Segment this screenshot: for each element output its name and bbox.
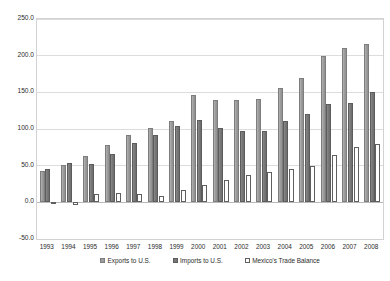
legend-label: Imports to U.S.: [180, 257, 223, 264]
legend-swatch-icon: [245, 258, 250, 263]
gridline: [37, 55, 383, 56]
y-axis-tick-label: 150.0: [0, 87, 34, 94]
x-axis-tick-label: 2001: [209, 243, 231, 250]
y-axis-tick-label: 100.0: [0, 124, 34, 131]
bar-exports: [364, 44, 369, 202]
bar-exports: [256, 99, 261, 202]
x-axis-tick-label: 2002: [231, 243, 253, 250]
bar-exports: [191, 95, 196, 202]
bar-imports: [283, 121, 288, 202]
bar-imports: [305, 114, 310, 202]
bar-balance: [267, 172, 272, 202]
chart-legend: Exports to U.S.Imports to U.S.Mexico's T…: [36, 257, 384, 264]
x-axis-tick-label: 2003: [252, 243, 274, 250]
bar-imports: [67, 163, 72, 202]
bar-balance: [310, 166, 315, 203]
gridline: [37, 92, 383, 93]
bar-balance: [159, 196, 164, 203]
bar-balance: [224, 180, 229, 202]
x-axis-tick-label: 1997: [123, 243, 145, 250]
bar-balance: [181, 190, 186, 202]
bar-imports: [153, 135, 158, 202]
bar-exports: [321, 56, 326, 202]
y-axis-tick-label: 250.0: [0, 14, 34, 21]
bar-imports: [175, 126, 180, 202]
legend-swatch-icon: [100, 258, 105, 263]
bar-balance: [246, 175, 251, 202]
x-axis-tick-label: 1999: [166, 243, 188, 250]
bar-imports: [240, 131, 245, 202]
x-axis-tick-label: 2006: [317, 243, 339, 250]
bar-imports: [110, 154, 115, 202]
bar-exports: [299, 78, 304, 203]
x-axis-tick-label: 2007: [339, 243, 361, 250]
bar-exports: [148, 128, 153, 202]
bar-balance: [94, 194, 99, 202]
x-axis-tick-label: 1993: [36, 243, 58, 250]
bar-balance: [354, 147, 359, 202]
trade-bar-chart: Billions US$ 250.0200.0150.0100.050.00.0…: [0, 0, 390, 281]
bar-balance: [332, 155, 337, 202]
bar-imports: [45, 169, 50, 202]
bar-exports: [40, 171, 45, 203]
bar-imports: [197, 120, 202, 202]
y-axis-tick-label: -50.0: [0, 234, 34, 241]
x-axis-tick-label: 1996: [101, 243, 123, 250]
bar-exports: [105, 145, 110, 202]
bar-exports: [278, 88, 283, 202]
y-axis-tick-label: 50.0: [0, 161, 34, 168]
legend-swatch-icon: [173, 258, 178, 263]
x-axis-tick-label: 2008: [360, 243, 382, 250]
x-axis-tick-label: 1995: [79, 243, 101, 250]
bar-balance: [137, 194, 142, 202]
bar-balance: [202, 185, 207, 203]
x-axis-tick-label: 2004: [274, 243, 296, 250]
x-axis-tick-label: 2005: [296, 243, 318, 250]
bar-exports: [342, 48, 347, 203]
legend-entry: Mexico's Trade Balance: [245, 257, 320, 264]
bar-exports: [61, 165, 66, 202]
legend-label: Exports to U.S.: [108, 257, 151, 264]
bar-balance: [375, 144, 380, 203]
bar-balance: [73, 202, 78, 205]
bar-exports: [213, 100, 218, 203]
legend-entry: Imports to U.S.: [173, 257, 223, 264]
y-axis-tick-label: 0.0: [0, 197, 34, 204]
legend-label: Mexico's Trade Balance: [252, 257, 320, 264]
bar-balance: [289, 169, 294, 202]
bar-imports: [218, 128, 223, 202]
bar-imports: [348, 103, 353, 203]
bar-imports: [262, 131, 267, 202]
bar-imports: [370, 92, 375, 203]
legend-entry: Exports to U.S.: [100, 257, 150, 264]
bar-imports: [89, 164, 94, 202]
bar-exports: [126, 135, 131, 202]
bar-exports: [234, 100, 239, 203]
bar-imports: [326, 104, 331, 202]
x-axis-tick-label: 2000: [187, 243, 209, 250]
bar-imports: [132, 143, 137, 202]
x-axis-tick-label: 1998: [144, 243, 166, 250]
bar-balance: [51, 202, 56, 204]
y-axis-tick-label: 200.0: [0, 51, 34, 58]
x-axis-tick-label: 1994: [58, 243, 80, 250]
bar-balance: [116, 193, 121, 203]
plot-area: [36, 18, 384, 240]
bar-exports: [83, 156, 88, 202]
gridline: [37, 239, 383, 240]
bar-exports: [169, 121, 174, 202]
gridline: [37, 19, 383, 20]
cropped-caption-sliver: [10, 274, 260, 281]
